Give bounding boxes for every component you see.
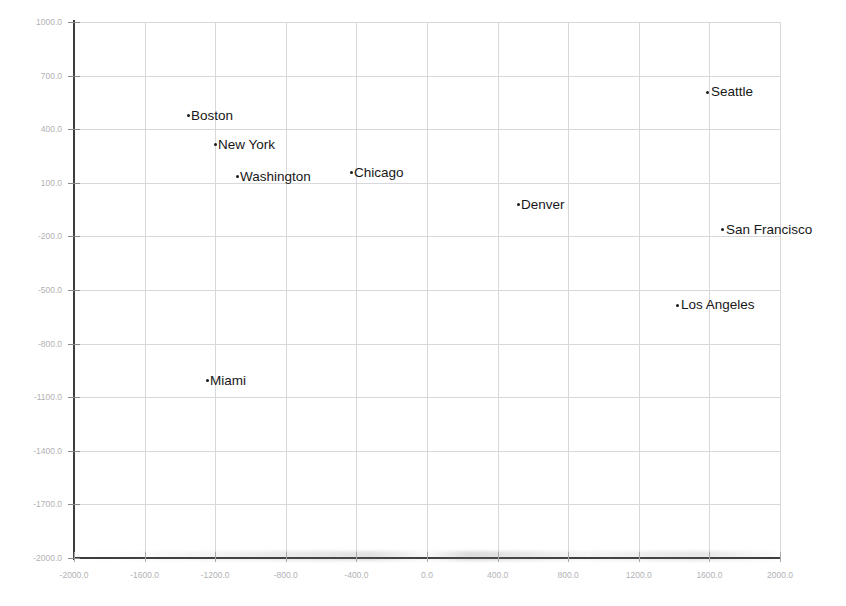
y-axis-tick bbox=[68, 344, 80, 345]
data-point-label: Boston bbox=[191, 109, 233, 123]
y-axis-tick bbox=[68, 129, 80, 130]
x-axis-tick bbox=[498, 552, 499, 562]
y-axis-tick-label: -800.0 bbox=[0, 339, 62, 349]
x-axis-tick bbox=[74, 552, 75, 562]
x-axis-tick bbox=[568, 552, 569, 562]
y-axis-tick bbox=[68, 290, 80, 291]
x-axis-tick-label: 800.0 bbox=[558, 570, 579, 580]
y-axis-tick-label: 700.0 bbox=[0, 71, 62, 81]
x-axis-tick bbox=[286, 552, 287, 562]
y-axis-tick bbox=[68, 504, 80, 505]
x-axis-tick-label: 1600.0 bbox=[696, 570, 722, 580]
x-axis-tick-label: -1200.0 bbox=[201, 570, 230, 580]
y-axis-tick-label: 1000.0 bbox=[0, 17, 62, 27]
y-axis-tick bbox=[68, 76, 80, 77]
x-axis-tick bbox=[639, 552, 640, 562]
data-point-label: Washington bbox=[240, 170, 311, 184]
data-point-label: San Francisco bbox=[726, 223, 812, 237]
y-axis-tick bbox=[68, 558, 80, 559]
plot-area bbox=[74, 22, 780, 558]
y-axis-tick-label: -1400.0 bbox=[0, 446, 62, 456]
y-axis-tick-label: -200.0 bbox=[0, 231, 62, 241]
gridline-horizontal bbox=[74, 290, 780, 291]
data-point-label: Seattle bbox=[711, 85, 753, 99]
y-axis-tick bbox=[68, 22, 80, 23]
gridline-vertical bbox=[780, 22, 781, 558]
y-axis-tick bbox=[68, 236, 80, 237]
y-axis-tick bbox=[68, 183, 80, 184]
x-axis-tick bbox=[780, 552, 781, 562]
gridline-horizontal bbox=[74, 183, 780, 184]
gridline-horizontal bbox=[74, 129, 780, 130]
y-axis-tick bbox=[68, 451, 80, 452]
y-axis-tick-label: 400.0 bbox=[0, 124, 62, 134]
data-point-label: Los Angeles bbox=[681, 298, 755, 312]
data-point-label: Chicago bbox=[354, 166, 404, 180]
gridline-horizontal bbox=[74, 344, 780, 345]
gridline-horizontal bbox=[74, 22, 780, 23]
x-axis-tick bbox=[356, 552, 357, 562]
scatter-plot-chart: -2000.0-1600.0-1200.0-800.0-400.00.0400.… bbox=[0, 0, 846, 606]
x-axis-tick-label: 1200.0 bbox=[626, 570, 652, 580]
gridline-horizontal bbox=[74, 236, 780, 237]
y-axis-tick-label: -1700.0 bbox=[0, 499, 62, 509]
x-axis-tick-label: -1600.0 bbox=[130, 570, 159, 580]
y-axis-tick-label: -1100.0 bbox=[0, 392, 62, 402]
x-axis-tick-label: 2000.0 bbox=[767, 570, 793, 580]
x-axis-tick-label: 400.0 bbox=[487, 570, 508, 580]
gridline-horizontal bbox=[74, 504, 780, 505]
x-axis-tick bbox=[145, 552, 146, 562]
x-axis-tick bbox=[215, 552, 216, 562]
gridline-horizontal bbox=[74, 397, 780, 398]
x-axis-tick-label: -400.0 bbox=[344, 570, 368, 580]
x-axis-tick bbox=[709, 552, 710, 562]
x-axis-tick bbox=[427, 552, 428, 562]
gridline-horizontal bbox=[74, 76, 780, 77]
y-axis-tick bbox=[68, 397, 80, 398]
x-axis-tick-label: 0.0 bbox=[421, 570, 433, 580]
data-point-label: Miami bbox=[210, 374, 246, 388]
x-axis-tick-label: -800.0 bbox=[274, 570, 298, 580]
data-point-label: Denver bbox=[521, 198, 565, 212]
y-axis-tick-label: -2000.0 bbox=[0, 553, 62, 563]
data-point-label: New York bbox=[218, 138, 275, 152]
y-axis-tick-label: -500.0 bbox=[0, 285, 62, 295]
x-axis-tick-label: -2000.0 bbox=[60, 570, 89, 580]
gridline-horizontal bbox=[74, 451, 780, 452]
y-axis-tick-label: 100.0 bbox=[0, 178, 62, 188]
